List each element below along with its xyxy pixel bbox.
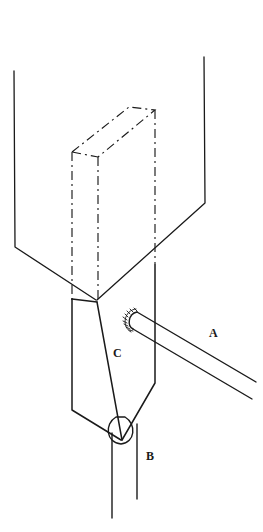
prism-right-face xyxy=(122,265,155,440)
rod-end-cap xyxy=(129,312,137,329)
phantom-top-face xyxy=(72,107,155,157)
callout-label-a: A xyxy=(209,327,218,339)
collar-knurl-4 xyxy=(125,314,128,317)
frame-right-edge xyxy=(97,57,205,300)
rod-lower-contour xyxy=(133,329,252,399)
callout-label-b: B xyxy=(146,450,154,462)
prism-top-left-slope xyxy=(72,299,97,302)
cylinder-b xyxy=(108,417,137,518)
prism-front-arris xyxy=(97,302,122,440)
outer-frame xyxy=(14,57,205,300)
frame-left-edge xyxy=(14,71,96,300)
technical-drawing-svg xyxy=(0,0,263,532)
figure-container: A B C xyxy=(0,0,263,532)
rod-a xyxy=(129,312,256,399)
callout-label-c: C xyxy=(113,347,122,359)
phantom-block xyxy=(72,107,155,300)
